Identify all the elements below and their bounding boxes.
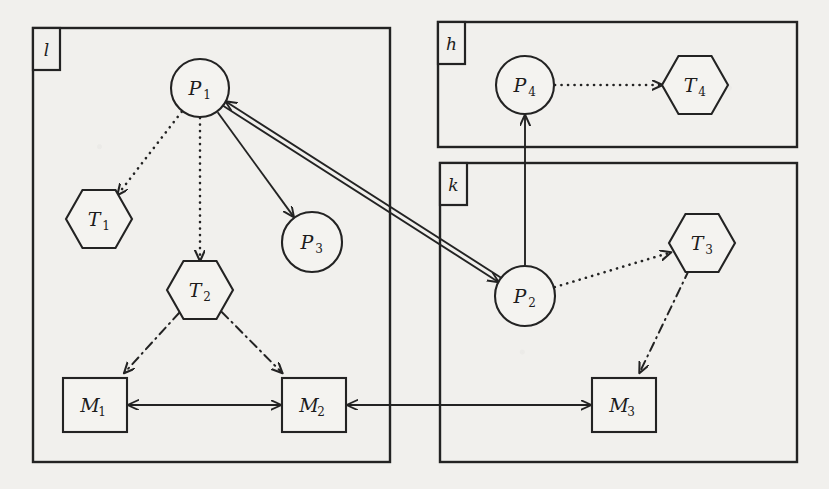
node-T4[interactable]: T4 [662, 56, 728, 114]
node-sublabel-P3: 3 [315, 242, 323, 256]
node-M2[interactable]: M2 [282, 378, 346, 432]
edges-layer [118, 85, 689, 405]
node-sublabel-T1: 1 [102, 219, 110, 233]
edge-T2-M2 [222, 312, 282, 373]
edge-line-T3-M3 [640, 270, 690, 373]
container-label-l: l [44, 40, 49, 60]
node-sublabel-M1: 1 [98, 405, 106, 419]
node-sublabel-M2: 2 [317, 405, 325, 419]
edge-T3-M3 [640, 270, 690, 373]
edge-T2-M1 [124, 313, 179, 373]
diagram-page: { "diagram": { "title": "Distributed pro… [0, 0, 829, 489]
node-label-T1: T [88, 208, 102, 230]
container-h: h [438, 22, 797, 147]
edge-P1-T1 [118, 112, 182, 195]
node-M3[interactable]: M3 [592, 378, 656, 432]
node-sublabel-T2: 2 [203, 290, 211, 304]
diagram-canvas: lhk P1P3P2P4T1T2T3T4M1M2M3 [0, 0, 829, 489]
node-P4[interactable]: P4 [496, 56, 554, 114]
node-P2[interactable]: P2 [495, 266, 555, 326]
node-P1[interactable]: P1 [171, 59, 229, 117]
edge-line-P1-T1 [118, 112, 182, 195]
edge-line-T2-M1 [124, 313, 179, 373]
container-label-k: k [448, 175, 458, 195]
node-label-T3: T [691, 232, 705, 254]
node-P3[interactable]: P3 [282, 212, 342, 272]
node-sublabel-T4: 4 [698, 85, 706, 99]
node-M1[interactable]: M1 [63, 378, 127, 432]
edge-line-P2-T3 [555, 252, 671, 287]
node-label-M1: M [79, 394, 100, 416]
node-sublabel-P2: 2 [528, 296, 536, 310]
node-sublabel-P1: 1 [203, 88, 211, 102]
node-label-P2: P [513, 285, 528, 307]
edge-line-P1-P3 [218, 112, 294, 217]
container-label-h: h [446, 34, 457, 54]
node-T1[interactable]: T1 [66, 190, 132, 248]
edge-P2-T3 [555, 252, 671, 287]
node-label-M2: M [298, 394, 319, 416]
node-T3[interactable]: T3 [669, 214, 735, 272]
node-label-T2: T [189, 279, 203, 301]
node-T2[interactable]: T2 [167, 261, 233, 319]
container-outline-h [438, 22, 797, 147]
node-label-P1: P [188, 77, 203, 99]
node-label-P4: P [513, 74, 528, 96]
node-sublabel-T3: 3 [705, 243, 713, 257]
edge-P1-P3 [218, 112, 294, 217]
nodes-layer: P1P3P2P4T1T2T3T4M1M2M3 [63, 56, 735, 432]
node-sublabel-M3: 3 [627, 405, 635, 419]
node-label-T4: T [684, 74, 698, 96]
node-label-M3: M [608, 394, 629, 416]
node-sublabel-P4: 4 [528, 85, 536, 99]
node-label-P3: P [300, 231, 315, 253]
edge-line-T2-M2 [222, 312, 282, 373]
